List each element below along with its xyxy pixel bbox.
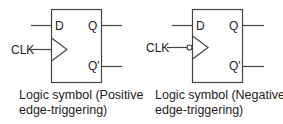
positive-edge-flip-flop-symbol [31,10,122,83]
flip-flop-diagram: D CLK Q Q' Logic symbol (Positive edge-t… [0,0,283,124]
q-bar-pin-label: Q' [229,60,241,72]
q-pin-label: Q [88,20,97,32]
negative-edge-caption-line-2: edge-triggering) [155,103,243,117]
d-pin-label: D [55,20,64,32]
d-pin-label: D [196,20,205,32]
positive-edge-caption-line-1: Logic symbol (Positive [19,88,143,102]
clk-pin-label: CLK [146,42,169,54]
clock-edge-triangle-icon [52,38,68,61]
q-bar-pin-label: Q' [88,60,100,72]
clk-pin-label: CLK [11,44,34,56]
negative-edge-caption-line-1: Logic symbol (Negative [155,88,283,102]
negative-edge-flip-flop-symbol [167,10,264,83]
clock-edge-triangle-icon [193,36,209,59]
inversion-bubble-icon [187,45,192,50]
positive-edge-caption-line-2: edge-triggering) [19,103,107,117]
q-pin-label: Q [229,20,238,32]
